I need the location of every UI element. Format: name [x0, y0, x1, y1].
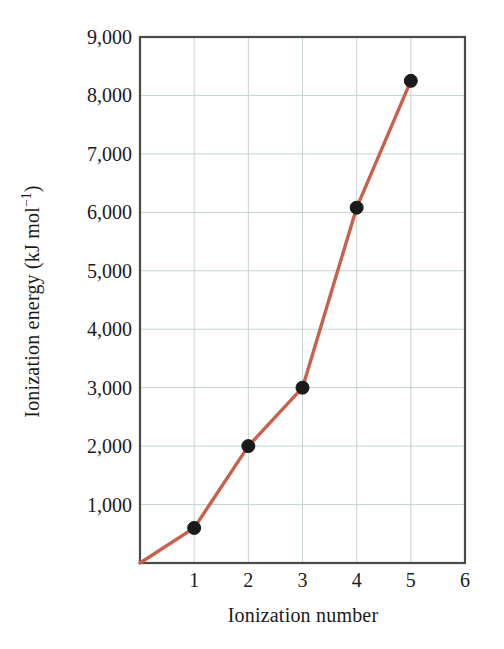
gridlines [140, 37, 465, 563]
x-axis-title: Ionization number [140, 604, 466, 627]
data-point-marker [404, 74, 417, 87]
data-point-marker [242, 440, 255, 453]
ionization-energy-chart: Ionization energy (kJ mol−1) 1,0002,0003… [0, 0, 504, 649]
plot-area [0, 0, 504, 649]
data-point-marker [350, 201, 363, 214]
data-polyline [140, 81, 411, 563]
data-line [140, 81, 411, 563]
data-point-marker [188, 521, 201, 534]
data-point-marker [296, 381, 309, 394]
